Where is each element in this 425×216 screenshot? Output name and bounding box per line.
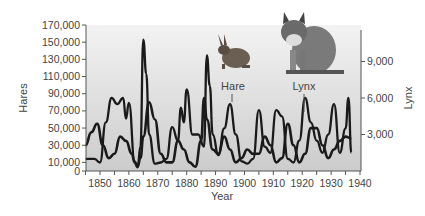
y-tick-label: 10,000 <box>48 156 80 168</box>
y-axis-label-left: Hares <box>17 83 29 113</box>
x-tick-label: 1930 <box>319 177 343 189</box>
y2-tick-label: 9,000 <box>367 55 393 67</box>
x-tick-label: 1890 <box>204 177 228 189</box>
x-tick-label: 1880 <box>175 177 199 189</box>
x-tick-label: 1900 <box>233 177 257 189</box>
y-tick-label: 90,000 <box>48 87 80 99</box>
y-tick-label: 70,000 <box>48 104 80 116</box>
hare-label: Hare <box>221 80 245 92</box>
x-tick-label: 1860 <box>117 177 141 189</box>
y-tick-label: 170,000 <box>42 19 80 31</box>
y-axis-label-right: Lynx <box>402 86 414 109</box>
y2-tick-label: 3,000 <box>367 128 393 140</box>
y-tick-label: 130,000 <box>42 53 80 65</box>
y-tick-label: 110,000 <box>43 70 80 82</box>
y-tick-label: 50,000 <box>48 122 80 134</box>
lynx-label: Lynx <box>293 80 316 92</box>
x-tick-label: 1850 <box>88 177 112 189</box>
x-tick-label: 1910 <box>262 177 286 189</box>
y-tick-label: 150,000 <box>42 36 80 48</box>
x-tick-label: 1920 <box>291 177 315 189</box>
y-tick-label: 30,000 <box>48 139 80 151</box>
y2-tick-label: 6,000 <box>367 92 393 104</box>
x-tick-label: 1870 <box>146 177 170 189</box>
population-chart: 010,00030,00050,00070,00090,000110,00013… <box>0 0 425 216</box>
x-tick-label: 1940 <box>348 177 372 189</box>
x-axis-label: Year <box>211 190 234 202</box>
